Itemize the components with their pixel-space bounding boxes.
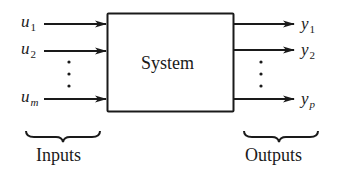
output-ellipsis-icon — [259, 60, 262, 87]
input-sub-2: 2 — [31, 48, 37, 60]
inputs-brace-icon — [26, 131, 100, 142]
input-label-2: u2 — [21, 40, 36, 60]
output-label-1: y1 — [301, 15, 315, 35]
output-sub-2: 2 — [310, 49, 316, 61]
input-label-1: u1 — [21, 13, 36, 33]
output-label-2: y2 — [301, 41, 315, 61]
output-var-1: y — [301, 14, 309, 33]
input-var-1: u — [21, 12, 30, 31]
input-label-m: um — [21, 88, 38, 108]
inputs-group-label: Inputs — [36, 146, 81, 164]
input-var-m: u — [21, 87, 30, 106]
input-sub-1: 1 — [31, 21, 37, 33]
output-var-2: y — [301, 40, 309, 59]
system-label: System — [141, 54, 194, 72]
input-var-2: u — [21, 39, 30, 58]
outputs-group-label: Outputs — [245, 146, 302, 164]
output-sub-1: 1 — [310, 23, 316, 35]
outputs-brace-icon — [244, 131, 318, 142]
input-sub-m: m — [31, 96, 39, 108]
output-sub-p: p — [310, 98, 316, 110]
output-label-p: yp — [301, 90, 315, 110]
input-ellipsis-icon — [67, 60, 70, 87]
output-var-p: y — [301, 89, 309, 108]
